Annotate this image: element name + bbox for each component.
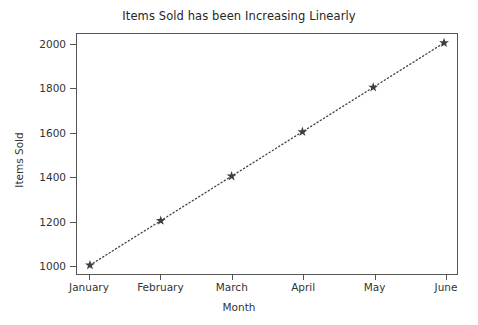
- chart-data-svg: [77, 34, 457, 274]
- plot-area: [76, 33, 458, 275]
- x-tick-mark: [446, 275, 447, 280]
- series-line: [90, 43, 444, 265]
- x-tick-label-june: June: [435, 281, 458, 293]
- y-tick-label-1600: 1600: [0, 127, 66, 139]
- y-tick-label-1400: 1400: [0, 171, 66, 183]
- y-axis-label: Items Sold: [13, 115, 25, 205]
- x-axis-label: Month: [0, 301, 478, 313]
- x-tick-mark: [160, 275, 161, 280]
- x-tick-mark: [89, 275, 90, 280]
- y-tick-label-2000: 2000: [0, 38, 66, 50]
- y-tick-label-1000: 1000: [0, 260, 66, 272]
- x-tick-label-may: May: [364, 281, 386, 293]
- x-tick-mark: [303, 275, 304, 280]
- chart-title: Items Sold has been Increasing Linearly: [0, 9, 478, 23]
- x-tick-label-january: January: [69, 281, 109, 293]
- y-tick-label-1800: 1800: [0, 82, 66, 94]
- chart-figure: Items Sold has been Increasing Linearly …: [0, 0, 478, 325]
- y-tick-label-1200: 1200: [0, 216, 66, 228]
- x-tick-label-april: April: [291, 281, 315, 293]
- x-tick-mark: [375, 275, 376, 280]
- x-tick-label-march: March: [216, 281, 248, 293]
- x-tick-label-february: February: [137, 281, 184, 293]
- x-tick-mark: [232, 275, 233, 280]
